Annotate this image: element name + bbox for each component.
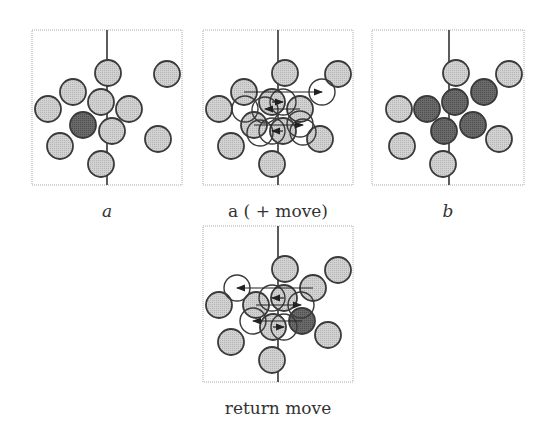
panel-caption: b [368, 201, 528, 221]
particle-light [218, 329, 244, 355]
particle-light [35, 96, 61, 122]
particle-light [99, 118, 125, 144]
panel-return_move [203, 226, 353, 382]
particle-light [206, 96, 232, 122]
particle-light [443, 60, 469, 86]
panel-caption: return move [198, 398, 358, 418]
particle-light [206, 292, 232, 318]
particle-light [272, 256, 298, 282]
particle-light [272, 60, 298, 86]
particle-light [88, 151, 114, 177]
particle-dark [442, 89, 468, 115]
particle-dark [414, 96, 440, 122]
panel-b [372, 30, 524, 185]
particle-light [218, 133, 244, 159]
particle-light [145, 126, 171, 152]
particle-light [315, 322, 341, 348]
panel-caption: a [27, 201, 187, 221]
particle-dark [471, 79, 497, 105]
particle-light [259, 347, 285, 373]
particle-dark [70, 112, 96, 138]
particle-light [430, 151, 456, 177]
particle-light [88, 89, 114, 115]
panel-a [32, 30, 182, 185]
panel-a_move [203, 30, 353, 185]
particle-light [259, 151, 285, 177]
particle-light [496, 61, 522, 87]
particle-light [486, 126, 512, 152]
particle-light [386, 96, 412, 122]
particle-light [95, 60, 121, 86]
particle-light [325, 257, 351, 283]
particle-light [60, 79, 86, 105]
particle-dark [431, 118, 457, 144]
particle-light [325, 61, 351, 87]
particle-dark [460, 112, 486, 138]
particle-light [154, 61, 180, 87]
panel-caption: a ( + move) [198, 201, 358, 221]
particle-light [47, 133, 73, 159]
particle-light [389, 133, 415, 159]
particle-light [116, 96, 142, 122]
